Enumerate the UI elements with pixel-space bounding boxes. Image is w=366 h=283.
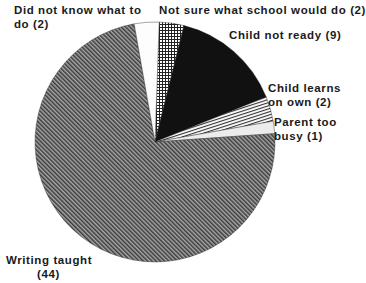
label-parent-too-busy: Parent too busy (1): [274, 115, 337, 143]
label-child-not-ready: Child not ready (9): [229, 28, 341, 42]
label-not-sure: Not sure what school would do (2): [159, 3, 366, 17]
pie-slices: [35, 22, 275, 262]
label-writing-taught: Writing taught (44): [6, 253, 91, 281]
label-child-learns-own: Child learns on own (2): [268, 81, 341, 109]
label-did-not-know: Did not know what to do (2): [14, 3, 142, 31]
